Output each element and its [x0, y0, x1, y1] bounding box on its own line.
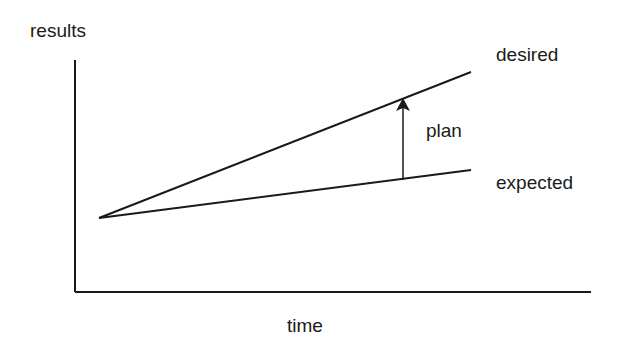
- expected-line: [99, 170, 471, 218]
- expected-label: expected: [496, 172, 573, 194]
- plan-label: plan: [426, 120, 462, 142]
- desired-line: [99, 72, 471, 218]
- desired-label: desired: [496, 44, 558, 66]
- y-axis-label: results: [30, 20, 86, 42]
- x-axis-label: time: [287, 315, 323, 337]
